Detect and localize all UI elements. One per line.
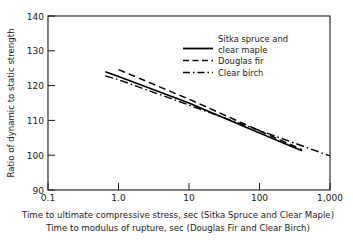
x-tick-label-1000: 1,000	[317, 193, 343, 203]
y-tick-label-120: 120	[27, 81, 44, 91]
y-tick-label-100: 100	[27, 151, 44, 161]
legend-label-sitka-line1: Sitka spruce and	[218, 34, 288, 44]
y-axis-title: Ratio of dynamic to static strength	[6, 28, 16, 177]
legend-label-douglas-fir: Douglas fir	[218, 56, 264, 66]
x-axis-ticks	[48, 183, 330, 190]
legend-label-clear-birch: Clear birch	[218, 68, 263, 78]
x-tick-label-0-1: 0.1	[41, 193, 55, 203]
y-tick-label-130: 130	[27, 46, 44, 56]
series-line-sitka-spruce-clear-maple	[105, 72, 302, 151]
x-axis-title-line2: Time to modulus of rupture, sec (Douglas…	[45, 223, 310, 233]
chart-figure: 90 100 110 120 130 140 0.1 1.0 10 100 1,…	[0, 0, 353, 243]
chart-legend: Sitka spruce and clear maple Douglas fir…	[183, 34, 288, 78]
legend-label-sitka-line2: clear maple	[218, 45, 267, 55]
x-axis-title-line1: Time to ultimate compressive stress, sec…	[21, 210, 334, 220]
y-tick-label-140: 140	[27, 12, 44, 22]
y-axis-ticks	[48, 16, 55, 190]
x-tick-label-100: 100	[251, 193, 268, 203]
x-tick-label-10: 10	[183, 193, 195, 203]
y-tick-label-110: 110	[27, 116, 44, 126]
chart-svg: 90 100 110 120 130 140 0.1 1.0 10 100 1,…	[0, 0, 353, 243]
x-tick-label-1-0: 1.0	[111, 193, 126, 203]
series-line-douglas-fir	[119, 70, 302, 150]
